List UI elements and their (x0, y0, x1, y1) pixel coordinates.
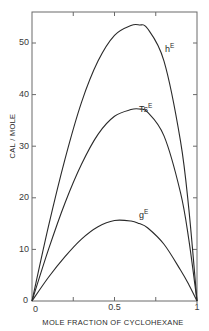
x-axis-title: MOLE FRACTION OF CYCLOHEXANE (42, 318, 183, 327)
origin-label-y: 0 (23, 295, 28, 305)
curve-label-hE: hE (165, 42, 175, 54)
x-axis-ticks: 0.51 (73, 12, 199, 312)
plot-frame (32, 12, 197, 301)
y-tick-label: 20 (19, 192, 29, 202)
curves (32, 24, 197, 301)
curve-gE (32, 220, 197, 301)
excess-properties-chart: 1020304050 0.51 hETsEgE 0 0 CAL / MOLE M… (0, 0, 209, 331)
y-tick-label: 10 (19, 244, 29, 254)
curve-TsE (32, 109, 197, 301)
origin-label-x: 0 (33, 304, 38, 314)
y-tick-label: 50 (19, 37, 29, 47)
x-tick-label: 0.5 (108, 302, 121, 312)
y-tick-label: 40 (19, 89, 29, 99)
y-axis-title: CAL / MOLE (8, 114, 17, 159)
curve-labels: hETsEgE (139, 42, 175, 220)
y-tick-label: 30 (19, 141, 29, 151)
curve-label-TsE: TsE (139, 102, 153, 114)
x-tick-label: 1 (194, 302, 199, 312)
y-axis-ticks: 1020304050 (19, 37, 197, 253)
curve-label-gE: gE (139, 208, 149, 220)
